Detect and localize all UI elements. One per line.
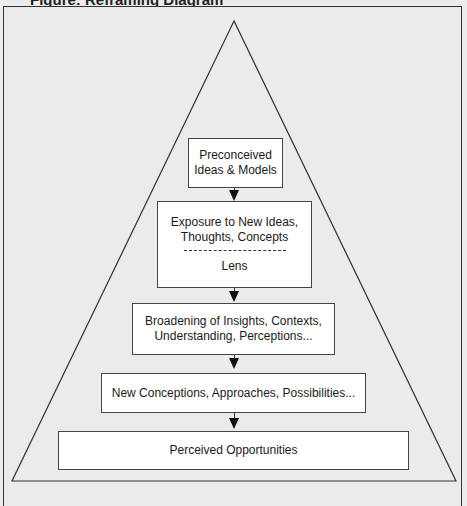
box-perceived-opportunities-line1: Perceived Opportunities bbox=[169, 443, 297, 458]
box-preconceived-line1: Preconceived bbox=[199, 148, 272, 163]
box-exposure-lens-label: Lens bbox=[221, 259, 247, 274]
dashed-separator bbox=[184, 250, 286, 251]
box-exposure-line1: Exposure to New Ideas, bbox=[171, 215, 298, 230]
arrow-down-icon bbox=[229, 358, 239, 369]
arrow-down-icon bbox=[229, 291, 239, 302]
box-preconceived-line2: Ideas & Models bbox=[194, 163, 277, 178]
box-exposure-line2: Thoughts, Concepts bbox=[181, 230, 288, 245]
box-exposure-new-ideas: Exposure to New Ideas, Thoughts, Concept… bbox=[157, 201, 312, 288]
box-broadening-line2: Understanding, Perceptions... bbox=[154, 329, 312, 344]
arrow-down-icon bbox=[229, 190, 239, 201]
box-preconceived-ideas: Preconceived Ideas & Models bbox=[188, 138, 283, 188]
box-perceived-opportunities: Perceived Opportunities bbox=[58, 431, 409, 470]
box-broadening-insights: Broadening of Insights, Contexts, Unders… bbox=[132, 303, 335, 355]
box-new-conceptions-line1: New Conceptions, Approaches, Possibiliti… bbox=[112, 386, 355, 401]
arrow-down-icon bbox=[229, 418, 239, 429]
box-broadening-line1: Broadening of Insights, Contexts, bbox=[145, 314, 322, 329]
box-new-conceptions: New Conceptions, Approaches, Possibiliti… bbox=[101, 373, 366, 413]
